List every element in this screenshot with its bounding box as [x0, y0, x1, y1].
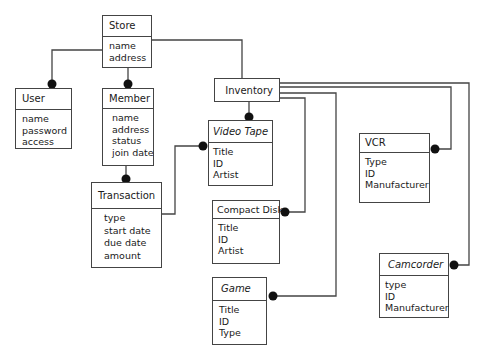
- entity-attributes: Title ID Type: [213, 301, 266, 339]
- entity-title: User: [16, 89, 71, 110]
- attribute: address: [109, 52, 151, 64]
- entity-video-tape: Video Tape Title ID Artist: [208, 120, 273, 186]
- attribute: Artist: [218, 245, 279, 257]
- entity-user: User name password access: [15, 88, 72, 149]
- entity-attributes: name address: [103, 37, 151, 63]
- attribute: ID: [365, 168, 429, 180]
- multiplicity-dot-camcorder: [450, 261, 459, 270]
- entity-inventory: Inventory: [214, 78, 280, 102]
- entity-title: Store: [103, 16, 151, 37]
- entity-attributes: Type ID Manufacturer: [360, 153, 429, 191]
- entity-title: VCR: [360, 134, 429, 153]
- entity-camcorder: Camcorder type ID Manufacturer: [379, 253, 449, 318]
- entity-attributes: name password access: [16, 110, 71, 148]
- entity-vcr: VCR Type ID Manufacturer: [359, 133, 430, 203]
- attribute: ID: [213, 158, 272, 170]
- entity-title: Video Tape: [209, 121, 272, 143]
- attribute: ID: [219, 316, 266, 328]
- multiplicity-dot-game: [269, 292, 278, 301]
- attribute: access: [22, 136, 71, 148]
- entity-title: Transaction: [92, 183, 161, 209]
- entity-title: Member: [103, 89, 153, 109]
- entity-compact-disk: Compact Disk Title ID Artist: [212, 200, 280, 264]
- attribute: Manufacturer: [365, 179, 429, 191]
- attribute: Type: [365, 156, 429, 168]
- entity-attributes: Title ID Artist: [213, 219, 279, 257]
- attribute: password: [22, 125, 71, 137]
- multiplicity-dot-videotape-left: [199, 142, 208, 151]
- edge-transaction-videotape: [162, 146, 203, 214]
- attribute: status: [112, 135, 153, 147]
- entity-transaction: Transaction type start date due date amo…: [91, 182, 162, 268]
- entity-title: Inventory: [225, 85, 273, 96]
- attribute: type: [385, 279, 448, 291]
- edge-inventory-game: [277, 93, 336, 296]
- attribute: amount: [104, 250, 161, 263]
- attribute: Title: [213, 146, 272, 158]
- attribute: ID: [218, 234, 279, 246]
- entity-title: Compact Disk: [213, 201, 279, 219]
- attribute: Title: [219, 304, 266, 316]
- attribute: name: [109, 40, 151, 52]
- entity-member: Member name address status join date: [102, 88, 154, 166]
- entity-attributes: type ID Manufacturer: [380, 276, 448, 314]
- attribute: Artist: [213, 169, 272, 181]
- attribute: name: [22, 113, 71, 125]
- attribute: type: [104, 212, 161, 225]
- edge-inventory-compactdisk: [280, 98, 305, 212]
- multiplicity-dot-vcr: [431, 145, 440, 154]
- attribute: Type: [219, 327, 266, 339]
- attribute: name: [112, 112, 153, 124]
- attribute: due date: [104, 237, 161, 250]
- edge-store-inventory: [152, 40, 242, 78]
- attribute: start date: [104, 225, 161, 238]
- entity-title: Camcorder: [380, 254, 448, 276]
- attribute: address: [112, 124, 153, 136]
- attribute: ID: [385, 291, 448, 303]
- entity-game: Game Title ID Type: [212, 277, 267, 345]
- edge-store-user: [52, 50, 102, 84]
- entity-title: Game: [213, 278, 266, 301]
- attribute: join date: [112, 147, 153, 159]
- entity-attributes: name address status join date: [103, 109, 153, 158]
- attribute: Manufacturer: [385, 302, 448, 314]
- entity-attributes: Title ID Artist: [209, 143, 272, 181]
- entity-store: Store name address: [102, 15, 152, 68]
- attribute: Title: [218, 222, 279, 234]
- entity-attributes: type start date due date amount: [92, 209, 161, 262]
